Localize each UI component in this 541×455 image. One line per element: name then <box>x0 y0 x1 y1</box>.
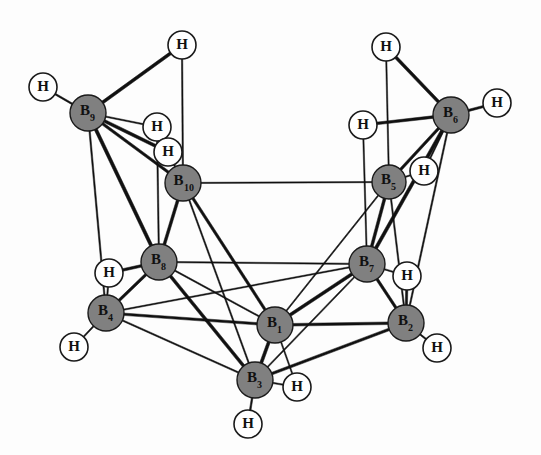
atom-circle <box>388 305 424 341</box>
molecule-canvas: HHHHHHHHHHHHHHB1B2B3B4B5B6B7B8B9B10 <box>0 0 541 455</box>
atom-circle <box>95 259 123 287</box>
boron-atom-b6[interactable]: B6 <box>433 97 469 133</box>
hydrogen-atom-h_bridge_c[interactable]: H <box>349 111 377 139</box>
boron-atom-b1[interactable]: B1 <box>257 307 293 343</box>
atom-circle <box>165 165 201 201</box>
atom-circle <box>410 157 438 185</box>
atom-circle <box>423 334 451 362</box>
hydrogen-atom-h_bridge_b[interactable]: H <box>154 138 182 166</box>
atom-circle <box>257 307 293 343</box>
hydrogen-atom-h_b3_term[interactable]: H <box>234 410 262 438</box>
boron-atom-b7[interactable]: B7 <box>349 246 385 282</box>
hydrogen-atom-h_bridge_e[interactable]: H <box>95 259 123 287</box>
atom-circle <box>88 295 124 331</box>
atom-circle <box>483 89 511 117</box>
atom-circle <box>60 333 88 361</box>
hydrogen-atom-h_b6_term[interactable]: H <box>483 89 511 117</box>
atom-circle <box>70 95 106 131</box>
hydrogen-atom-h_b7_term[interactable]: H <box>393 262 421 290</box>
atom-circle <box>154 138 182 166</box>
atom-circle <box>433 97 469 133</box>
bond-h_b7_term-b2 <box>405 289 408 307</box>
boron-atom-b9[interactable]: B9 <box>70 95 106 131</box>
atom-circle <box>283 373 311 401</box>
boron-atom-b4[interactable]: B4 <box>88 295 124 331</box>
hydrogen-atom-h_b9_term[interactable]: H <box>29 73 57 101</box>
atom-circle <box>349 246 385 282</box>
hydrogen-atom-h_bridge_f[interactable]: H <box>283 373 311 401</box>
hydrogen-atom-h_b2_term[interactable]: H <box>423 334 451 362</box>
atom-circle <box>234 410 262 438</box>
atom-circle <box>141 244 177 280</box>
molecule-figure: HHHHHHHHHHHHHHB1B2B3B4B5B6B7B8B9B10 <box>0 0 541 455</box>
atom-circle <box>349 111 377 139</box>
boron-atom-b5[interactable]: B5 <box>372 165 406 199</box>
boron-atom-b3[interactable]: B3 <box>237 362 273 398</box>
atom-circle <box>168 31 196 59</box>
atom-circle <box>372 33 400 61</box>
hydrogen-atom-h_bridge_d[interactable]: H <box>410 157 438 185</box>
hydrogen-atom-h_bridge_a[interactable]: H <box>143 113 171 141</box>
atom-circle <box>29 73 57 101</box>
atom-circle <box>393 262 421 290</box>
boron-atom-b8[interactable]: B8 <box>141 244 177 280</box>
hydrogen-atom-h_top_left[interactable]: H <box>168 31 196 59</box>
atom-circle <box>372 165 406 199</box>
hydrogen-atom-h_b4_term[interactable]: H <box>60 333 88 361</box>
hydrogen-atom-h_top_right[interactable]: H <box>372 33 400 61</box>
atom-circle <box>237 362 273 398</box>
atom-circle <box>143 113 171 141</box>
boron-atom-b10[interactable]: B10 <box>165 165 201 201</box>
boron-atom-b2[interactable]: B2 <box>388 305 424 341</box>
